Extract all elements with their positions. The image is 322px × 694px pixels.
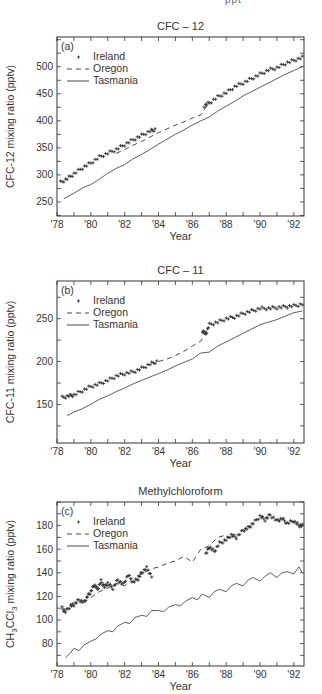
- legend: IrelandOregonTasmania: [67, 294, 138, 330]
- y-tick-label: 140: [36, 567, 53, 578]
- x-tick-label: '88: [220, 219, 233, 230]
- chart-title: CFC – 11: [157, 264, 203, 276]
- y-tick-label: 120: [36, 591, 53, 602]
- chart-title: CFC – 12: [157, 20, 204, 32]
- x-tick-label: '90: [253, 446, 266, 457]
- y-tick-label: 160: [36, 544, 53, 555]
- x-tick-label: '86: [186, 446, 199, 457]
- legend-label: Ireland: [93, 294, 125, 306]
- panel-label: (a): [61, 40, 74, 52]
- x-tick-label: '84: [152, 219, 165, 230]
- x-tick-label: '82: [118, 219, 131, 230]
- x-tick-label: '88: [220, 669, 233, 680]
- y-axis-label: CFC-12 mixing ratio (pptv): [4, 65, 16, 188]
- legend-marker-plus-icon: [77, 300, 80, 303]
- figure: CFC – 12'78'80'82'84'86'88'90'92Year2503…: [0, 0, 322, 694]
- y-tick-label: 180: [36, 520, 53, 531]
- y-tick-label: 250: [36, 196, 53, 207]
- series-oregon: [159, 329, 208, 362]
- x-tick-label: '84: [152, 446, 165, 457]
- legend: IrelandOregonTasmania: [67, 515, 138, 551]
- x-tick-label: '78: [50, 446, 63, 457]
- y-axis-label: CFC-11 mixing ratio (pptv): [4, 301, 16, 423]
- x-tick-label: '90: [253, 219, 266, 230]
- legend-label: Tasmania: [93, 318, 138, 330]
- x-tick-label: '78: [50, 669, 63, 680]
- legend-marker-plus-icon: [77, 521, 80, 524]
- x-tick-label: '82: [118, 446, 131, 457]
- x-tick-label: '92: [287, 446, 300, 457]
- x-tick-label: '92: [287, 669, 300, 680]
- panel-label: (c): [61, 505, 73, 517]
- legend-label: Ireland: [93, 515, 125, 527]
- legend-label: Oregon: [93, 527, 128, 539]
- y-tick-label: 100: [36, 614, 53, 625]
- panel-label: (b): [61, 284, 74, 296]
- y-tick-label: 80: [42, 638, 54, 649]
- x-axis-label: Year: [169, 680, 192, 692]
- legend: IrelandOregonTasmania: [67, 50, 138, 86]
- x-axis-label: Year: [169, 230, 192, 242]
- y-tick-label: 150: [36, 399, 53, 410]
- x-tick-label: '92: [287, 219, 300, 230]
- y-tick-label: 300: [36, 169, 53, 180]
- y-axis-label: CH3CCl3 mixing ratio (pptv): [4, 520, 19, 648]
- x-tick-label: '90: [253, 669, 266, 680]
- x-tick-label: '82: [118, 669, 131, 680]
- chart-title: Methylchloroform: [138, 485, 222, 497]
- x-tick-label: '84: [152, 669, 165, 680]
- y-tick-label: 450: [36, 88, 53, 99]
- y-tick-label: 400: [36, 115, 53, 126]
- series-oregon: [116, 105, 207, 154]
- legend-label: Ireland: [93, 50, 125, 62]
- x-axis-label: Year: [169, 457, 192, 469]
- legend-label: Oregon: [93, 62, 128, 74]
- legend-label: Tasmania: [93, 539, 138, 551]
- x-tick-label: '86: [186, 669, 199, 680]
- x-tick-label: '78: [50, 219, 63, 230]
- chart-panel-c: Methylchloroform'78'80'82'84'86'88'90'92…: [4, 485, 304, 692]
- y-tick-label: 250: [36, 313, 53, 324]
- legend-label: Tasmania: [93, 74, 138, 86]
- y-tick-label: 500: [36, 61, 53, 72]
- x-tick-label: '86: [186, 219, 199, 230]
- x-tick-label: '88: [220, 446, 233, 457]
- x-tick-label: '80: [84, 446, 97, 457]
- legend-label: Oregon: [93, 306, 128, 318]
- x-tick-label: '80: [84, 669, 97, 680]
- chart-panel-b: CFC – 11'78'80'82'84'86'88'90'92Year1502…: [4, 264, 304, 469]
- x-tick-label: '80: [84, 219, 97, 230]
- chart-panel-a: CFC – 12'78'80'82'84'86'88'90'92Year2503…: [4, 20, 304, 242]
- y-tick-label: 200: [36, 356, 53, 367]
- legend-marker-plus-icon: [77, 56, 80, 59]
- series-tasmania: [64, 67, 302, 199]
- y-tick-label: 350: [36, 142, 53, 153]
